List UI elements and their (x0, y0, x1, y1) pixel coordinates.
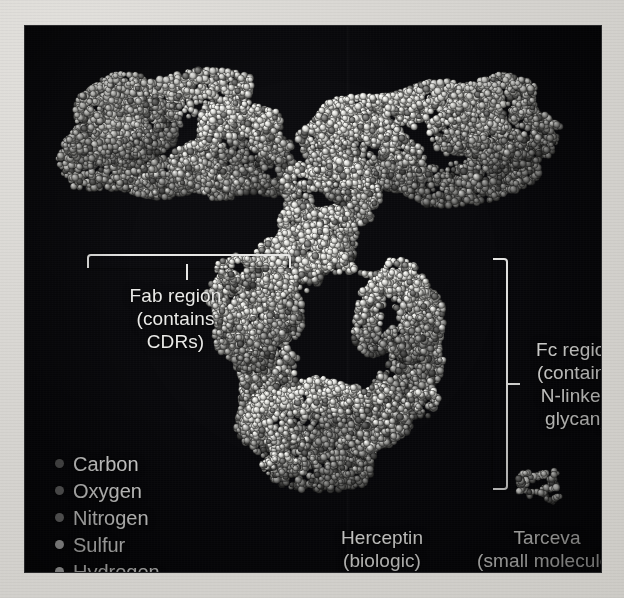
oxygen-color-swatch (55, 486, 64, 495)
hydrogen-color-swatch (55, 567, 64, 572)
legend-item-sulfur: Sulfur (55, 531, 160, 558)
atom-color-legend: Carbon Oxygen Nitrogen Sulfur Hydrogen (55, 450, 160, 572)
fc-region-label: Fc region (contains N-linked glycan) (517, 338, 601, 430)
legend-item-oxygen: Oxygen (55, 477, 160, 504)
figure-panel: Fab region (contains CDRs) Fc region (co… (25, 26, 601, 572)
tarceva-caption: Tarceva (small molecule) (457, 526, 601, 572)
legend-label-carbon: Carbon (73, 454, 139, 474)
legend-item-hydrogen: Hydrogen (55, 558, 160, 572)
herceptin-caption: Herceptin (biologic) (313, 526, 451, 572)
fab-region-brace-stem (186, 264, 188, 280)
legend-item-nitrogen: Nitrogen (55, 504, 160, 531)
legend-label-oxygen: Oxygen (73, 481, 142, 501)
nitrogen-color-swatch (55, 513, 64, 522)
fab-region-label: Fab region (contains CDRs) (73, 284, 278, 353)
tarceva-molecule-render (495, 448, 585, 518)
fab-region-brace (87, 254, 291, 268)
legend-label-hydrogen: Hydrogen (73, 562, 160, 573)
sulfur-color-swatch (55, 540, 64, 549)
fc-region-brace (493, 258, 508, 490)
legend-item-carbon: Carbon (55, 450, 160, 477)
legend-label-sulfur: Sulfur (73, 535, 125, 555)
legend-label-nitrogen: Nitrogen (73, 508, 149, 528)
carbon-color-swatch (55, 459, 64, 468)
